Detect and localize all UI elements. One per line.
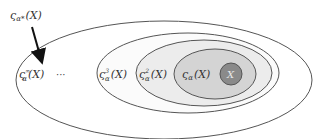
label-x: X xyxy=(226,69,235,80)
label-single: ςα(X) xyxy=(182,68,210,82)
ellipsis: ··· xyxy=(56,69,66,80)
nested-sets-diagram: ςα*(X) ς∞α(X) ··· ς3α(X) ς2α(X) ςα(X) X xyxy=(0,0,322,139)
label-cube: ς3α(X) xyxy=(99,67,127,83)
pointer-label: ςα*(X) xyxy=(10,9,42,23)
label-square: ς2α(X) xyxy=(139,67,167,83)
label-inf: ς∞α(X) xyxy=(19,67,44,83)
diagram-svg: ςα*(X) ς∞α(X) ··· ς3α(X) ς2α(X) ςα(X) X xyxy=(0,0,322,139)
